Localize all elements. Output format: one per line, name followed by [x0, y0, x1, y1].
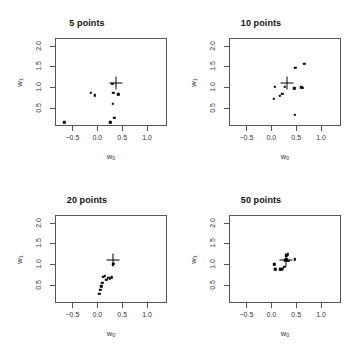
x-axis-title: w0 — [55, 152, 167, 162]
x-tick-label: 0.0 — [258, 134, 284, 142]
x-tick-mark — [271, 126, 272, 131]
y-tick-mark — [224, 87, 229, 88]
x-tick-label: −0.5 — [233, 311, 259, 319]
data-point — [112, 103, 114, 105]
x-tick-mark — [271, 303, 272, 308]
x-tick-mark — [122, 303, 123, 308]
y-tick-mark — [224, 66, 229, 67]
y-tick-mark — [50, 66, 55, 67]
data-point — [63, 121, 65, 123]
x-tick-mark — [246, 303, 247, 308]
panel-title: 10 points — [174, 18, 348, 29]
data-point — [281, 93, 283, 95]
x-tick-mark — [97, 126, 98, 131]
x-tick-label: 1.0 — [308, 311, 334, 319]
data-point — [99, 288, 101, 290]
y-tick-mark — [224, 243, 229, 244]
true-value-cross-marker — [280, 254, 293, 267]
x-tick-label: 0.0 — [84, 134, 110, 142]
data-point — [303, 63, 305, 65]
y-tick-mark — [50, 46, 55, 47]
x-tick-label: 0.5 — [109, 311, 135, 319]
data-point — [111, 276, 113, 278]
data-point — [301, 87, 303, 89]
scatter-panel-0: 5 points0.51.01.52.0−0.50.00.51.0w0w1 — [0, 0, 174, 177]
y-axis-title: w1 — [188, 215, 198, 303]
y-tick-mark — [50, 108, 55, 109]
true-value-cross-marker — [109, 76, 122, 89]
x-tick-label: 0.0 — [258, 311, 284, 319]
true-value-cross-marker — [280, 77, 293, 90]
x-tick-label: −0.5 — [233, 134, 259, 142]
x-tick-mark — [72, 126, 73, 131]
data-point — [273, 263, 275, 265]
x-tick-mark — [147, 303, 148, 308]
y-tick-mark — [224, 108, 229, 109]
data-point — [273, 98, 275, 100]
x-tick-label: 1.0 — [134, 134, 160, 142]
x-tick-label: 1.0 — [308, 134, 334, 142]
x-tick-mark — [321, 303, 322, 308]
data-point — [274, 86, 276, 88]
scatter-panel-3: 50 points0.51.01.52.0−0.50.00.51.0w0w1 — [174, 177, 348, 354]
y-tick-mark — [50, 223, 55, 224]
y-tick-mark — [224, 46, 229, 47]
y-tick-mark — [50, 87, 55, 88]
y-tick-mark — [224, 264, 229, 265]
x-tick-mark — [296, 126, 297, 131]
panel-title: 20 points — [0, 195, 174, 206]
y-tick-mark — [50, 264, 55, 265]
y-axis-title: w1 — [14, 215, 24, 303]
data-point — [98, 293, 100, 295]
x-tick-label: 0.5 — [283, 311, 309, 319]
data-point — [294, 258, 296, 260]
x-tick-mark — [97, 303, 98, 308]
x-tick-label: −0.5 — [59, 134, 85, 142]
x-tick-mark — [246, 126, 247, 131]
data-point — [294, 113, 296, 115]
x-tick-label: 0.5 — [109, 134, 135, 142]
x-axis-title: w0 — [229, 329, 341, 339]
data-point — [281, 268, 283, 270]
x-tick-mark — [147, 126, 148, 131]
data-point — [101, 282, 103, 284]
x-axis-title: w0 — [229, 152, 341, 162]
data-point — [90, 92, 92, 94]
panel-title: 5 points — [0, 18, 174, 29]
x-tick-label: −0.5 — [59, 311, 85, 319]
data-point — [113, 116, 115, 118]
true-value-cross-marker — [106, 254, 119, 267]
x-tick-mark — [296, 303, 297, 308]
x-tick-mark — [122, 126, 123, 131]
figure-panel-grid: 5 points0.51.01.52.0−0.50.00.51.0w0w110 … — [0, 0, 348, 354]
data-point — [293, 87, 295, 89]
y-tick-mark — [224, 285, 229, 286]
scatter-panel-1: 10 points0.51.01.52.0−0.50.00.51.0w0w1 — [174, 0, 348, 177]
y-tick-mark — [50, 285, 55, 286]
x-tick-mark — [321, 126, 322, 131]
y-axis-title: w1 — [188, 38, 198, 126]
y-tick-mark — [224, 223, 229, 224]
x-tick-mark — [72, 303, 73, 308]
y-axis-title: w1 — [14, 38, 24, 126]
scatter-panel-2: 20 points0.51.01.52.0−0.50.00.51.0w0w1 — [0, 177, 174, 354]
data-point — [112, 92, 114, 94]
x-tick-label: 0.5 — [283, 134, 309, 142]
data-point — [279, 95, 281, 97]
data-point — [117, 93, 119, 95]
data-point — [109, 121, 111, 123]
y-tick-mark — [50, 243, 55, 244]
x-tick-label: 0.0 — [84, 311, 110, 319]
x-axis-title: w0 — [55, 329, 167, 339]
data-point — [94, 94, 96, 96]
data-point — [274, 268, 276, 270]
x-tick-label: 1.0 — [134, 311, 160, 319]
data-point — [294, 67, 296, 69]
data-point — [100, 285, 102, 287]
panel-title: 50 points — [174, 195, 348, 206]
